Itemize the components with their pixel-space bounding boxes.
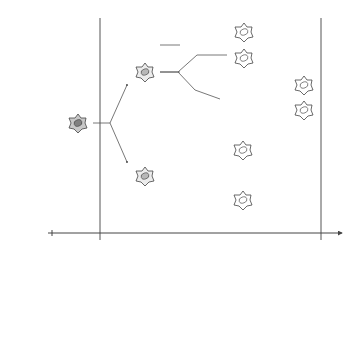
cell-gen1-bottom-icon (136, 167, 154, 186)
cell-gen2-3-icon (295, 76, 313, 95)
root-cell-icon (69, 114, 87, 133)
cell-gen2-6-icon (234, 191, 252, 210)
cell-division-diagram (0, 0, 359, 349)
cell-gen2-5-icon (234, 141, 252, 160)
cell-gen2-1-icon (235, 23, 253, 42)
cell-gen2-2-icon (235, 49, 253, 68)
cell-gen1-top-icon (136, 63, 154, 82)
cell-gen2-4-icon (295, 101, 313, 120)
